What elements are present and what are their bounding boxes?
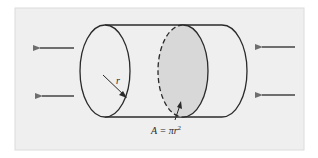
area-label: A = πr2: [150, 124, 182, 136]
cylinder-left-end: [80, 25, 130, 117]
area-exponent: 2: [178, 124, 182, 132]
radius-label: r: [116, 75, 120, 86]
area-formula: A = πr: [150, 125, 178, 136]
cylinder-diagram: r A = πr2: [0, 0, 318, 158]
